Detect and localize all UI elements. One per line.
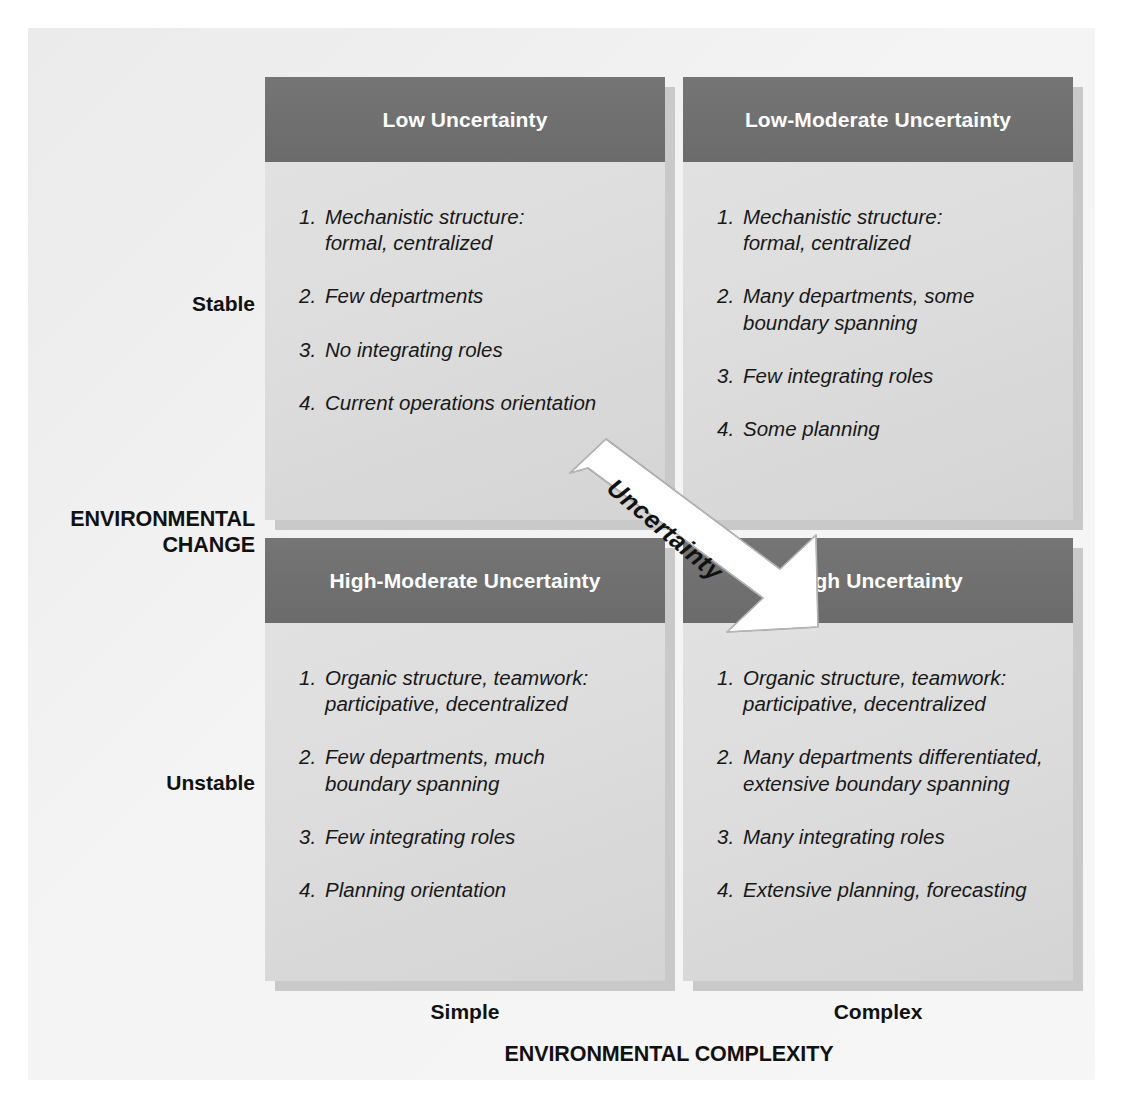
list-item-number: 1. [299, 204, 325, 230]
list-item-number: 2. [717, 283, 743, 309]
list-item-text: Few integrating roles [743, 363, 1047, 389]
list-item-number: 1. [299, 665, 325, 691]
quadrant-high-moderate-uncertainty: High-Moderate Uncertainty 1. Organic str… [265, 538, 665, 981]
list-item-text: Many departments, some boundary spanning [743, 283, 1047, 335]
y-axis-title: ENVIRONMENTAL CHANGE [30, 506, 255, 558]
list-item-text: Organic structure, teamwork: participati… [743, 665, 1047, 717]
quadrant-body: Low Uncertainty 1. Mechanistic structure… [265, 77, 665, 520]
quadrant-low-uncertainty: Low Uncertainty 1. Mechanistic structure… [265, 77, 665, 520]
y-axis-low-label: Unstable [60, 771, 255, 795]
list-item-number: 4. [717, 877, 743, 903]
list-item-text: No integrating roles [325, 337, 639, 363]
list-item: 1. Mechanistic structure: formal, centra… [717, 204, 1047, 256]
x-axis-title: ENVIRONMENTAL COMPLEXITY [265, 1042, 1073, 1067]
list-item-text: Few integrating roles [325, 824, 639, 850]
list-item-number: 3. [299, 824, 325, 850]
list-item-number: 3. [717, 363, 743, 389]
list-item: 1. Mechanistic structure: formal, centra… [299, 204, 639, 256]
quadrant-header: High Uncertainty [683, 538, 1073, 623]
quadrant-body: High-Moderate Uncertainty 1. Organic str… [265, 538, 665, 981]
quadrant-header: High-Moderate Uncertainty [265, 538, 665, 623]
list-item-number: 2. [299, 744, 325, 770]
list-item-number: 4. [299, 390, 325, 416]
list-item: 1. Organic structure, teamwork: particip… [299, 665, 639, 717]
list-item-text: Mechanistic structure: formal, centraliz… [743, 204, 1047, 256]
quadrant-low-moderate-uncertainty: Low-Moderate Uncertainty 1. Mechanistic … [683, 77, 1073, 520]
list-item-text: Few departments [325, 283, 639, 309]
quadrant-title: High Uncertainty [793, 569, 963, 593]
list-item-number: 3. [717, 824, 743, 850]
list-item-text: Organic structure, teamwork: participati… [325, 665, 639, 717]
quadrant-item-list: 1. Mechanistic structure: formal, centra… [265, 162, 665, 520]
list-item-text: Planning orientation [325, 877, 639, 903]
list-item: 3. Many integrating roles [717, 824, 1047, 850]
quadrant-item-list: 1. Mechanistic structure: formal, centra… [683, 162, 1073, 520]
list-item: 4. Some planning [717, 416, 1047, 442]
list-item-number: 1. [717, 665, 743, 691]
quadrant-header: Low Uncertainty [265, 77, 665, 162]
quadrant-item-list: 1. Organic structure, teamwork: particip… [265, 623, 665, 981]
list-item: 4. Planning orientation [299, 877, 639, 903]
list-item-number: 1. [717, 204, 743, 230]
list-item-text: Current operations orientation [325, 390, 639, 416]
list-item-number: 3. [299, 337, 325, 363]
quadrant-header: Low-Moderate Uncertainty [683, 77, 1073, 162]
list-item-number: 2. [717, 744, 743, 770]
quadrant-body: Low-Moderate Uncertainty 1. Mechanistic … [683, 77, 1073, 520]
quadrant-title: Low-Moderate Uncertainty [745, 108, 1011, 132]
list-item-number: 4. [717, 416, 743, 442]
x-axis-right-label: Complex [683, 1000, 1073, 1024]
list-item: 2. Many departments, some boundary spann… [717, 283, 1047, 335]
list-item: 3. Few integrating roles [299, 824, 639, 850]
y-axis-high-label: Stable [60, 292, 255, 316]
list-item-text: Some planning [743, 416, 1047, 442]
list-item: 2. Many departments differentiated, exte… [717, 744, 1047, 796]
quadrant-title: High-Moderate Uncertainty [330, 569, 601, 593]
list-item: 1. Organic structure, teamwork: particip… [717, 665, 1047, 717]
list-item: 4. Extensive planning, forecasting [717, 877, 1047, 903]
quadrant-item-list: 1. Organic structure, teamwork: particip… [683, 623, 1073, 981]
list-item-number: 2. [299, 283, 325, 309]
list-item-number: 4. [299, 877, 325, 903]
list-item-text: Mechanistic structure: formal, centraliz… [325, 204, 639, 256]
quadrant-body: High Uncertainty 1. Organic structure, t… [683, 538, 1073, 981]
list-item-text: Many integrating roles [743, 824, 1047, 850]
list-item-text: Many departments differentiated, extensi… [743, 744, 1047, 796]
list-item: 2. Few departments [299, 283, 639, 309]
list-item: 3. No integrating roles [299, 337, 639, 363]
list-item: 2. Few departments, much boundary spanni… [299, 744, 639, 796]
x-axis-left-label: Simple [265, 1000, 665, 1024]
list-item: 4. Current operations orientation [299, 390, 639, 416]
list-item-text: Few departments, much boundary spanning [325, 744, 639, 796]
quadrant-high-uncertainty: High Uncertainty 1. Organic structure, t… [683, 538, 1073, 981]
list-item: 3. Few integrating roles [717, 363, 1047, 389]
diagram-canvas: Low Uncertainty 1. Mechanistic structure… [0, 0, 1123, 1109]
list-item-text: Extensive planning, forecasting [743, 877, 1047, 903]
quadrant-title: Low Uncertainty [383, 108, 548, 132]
